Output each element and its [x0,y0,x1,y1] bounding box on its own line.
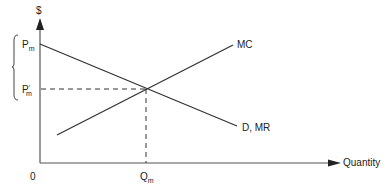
mc-label: MC [237,39,253,50]
demand-mr-curve [40,44,237,126]
pm-prime-label: P′m [22,84,32,97]
monopoly-diagram: $ Pm P′m 0 Qm MC D, MR Quantity [0,0,392,187]
x-axis-arrow-icon [328,160,341,167]
pm-label: Pm [22,39,35,52]
qm-label: Qm [140,171,154,184]
y-axis-arrow-icon [36,18,44,30]
origin-label: 0 [30,171,36,182]
demand-mr-label: D, MR [242,122,270,133]
mc-curve [57,45,233,135]
y-axis-label: $ [36,5,42,16]
x-axis-label: Quantity [343,157,380,168]
price-range-brace [12,35,18,100]
